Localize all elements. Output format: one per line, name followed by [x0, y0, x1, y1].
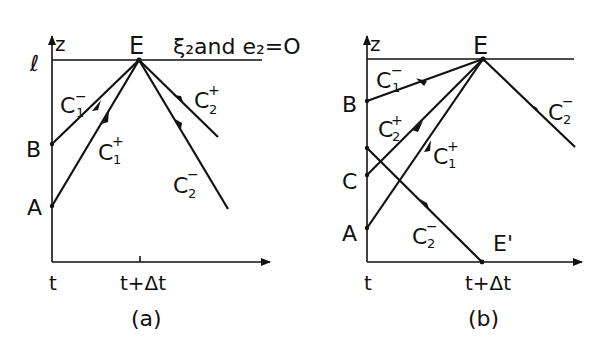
point-a-label: A	[27, 195, 42, 220]
svg-text:−: −	[562, 93, 574, 109]
c2-plus-label: C + 2	[194, 82, 220, 117]
c1-minus-label: C − 1	[376, 62, 403, 95]
c1-plus-label: C + 1	[98, 133, 124, 167]
svg-text:1: 1	[113, 152, 121, 167]
point-a-label: A	[342, 221, 357, 246]
svg-text:−: −	[187, 166, 199, 182]
svg-text:2: 2	[563, 112, 571, 127]
svg-text:2: 2	[427, 236, 435, 251]
c2-minus-right-label: C − 2	[548, 93, 574, 127]
arrow-icon	[530, 104, 540, 114]
svg-text:2: 2	[209, 102, 217, 117]
svg-text:+: +	[447, 138, 459, 154]
tick-label-t: t	[49, 271, 57, 295]
svg-text:1: 1	[392, 80, 400, 95]
c1-minus-label: C − 1	[60, 88, 87, 120]
point-c	[365, 173, 369, 177]
boundary-condition-note: ξ₂and e₂=O	[173, 34, 301, 59]
point-e-label: E	[473, 32, 488, 60]
level-label: ℓ	[29, 51, 39, 76]
c1-plus-label: C + 1	[433, 138, 459, 171]
svg-text:+: +	[112, 133, 124, 149]
tick-label-t-plus-dt: t+Δt	[120, 271, 166, 295]
panel-caption-b: (b)	[468, 306, 499, 331]
point-e-label: E	[129, 32, 144, 60]
svg-text:−: −	[75, 88, 87, 104]
svg-text:+: +	[391, 112, 403, 128]
point-b-label: B	[26, 137, 41, 162]
c2-minus-label: C − 2	[173, 166, 199, 201]
svg-text:2: 2	[188, 186, 196, 201]
svg-text:2: 2	[392, 129, 400, 144]
point-b-label: B	[342, 92, 357, 117]
svg-text:C: C	[376, 68, 391, 93]
c1-plus-line	[52, 60, 139, 206]
arrow-icon	[412, 121, 423, 132]
svg-text:C: C	[60, 93, 75, 118]
panel-b: z E B C A E' C − 1 C + 2 C + 1 C − 2 C −…	[342, 32, 582, 331]
z-axis-label: z	[370, 32, 381, 56]
point-b	[50, 142, 54, 146]
panel-caption-a: (a)	[131, 306, 162, 331]
point-c-label: C	[342, 169, 357, 194]
point-e-prime	[480, 260, 485, 265]
tick-label-t: t	[364, 271, 372, 295]
svg-text:−: −	[426, 218, 438, 234]
point-a	[50, 204, 54, 208]
z-axis-label: z	[55, 32, 66, 56]
point-b	[365, 99, 369, 103]
characteristics-diagram: z ℓ E ξ₂and e₂=O B A C − 1 C + 1 C + 2 C…	[0, 0, 606, 354]
point-a	[365, 226, 369, 230]
svg-text:1: 1	[76, 105, 84, 120]
point-upper-start	[365, 146, 369, 150]
c2-plus-label: C + 2	[378, 112, 403, 144]
tick-label-t-plus-dt: t+Δt	[465, 271, 511, 295]
svg-text:−: −	[391, 62, 403, 78]
svg-text:+: +	[208, 82, 220, 98]
svg-text:1: 1	[448, 156, 456, 171]
c2-minus-lower-label: C − 2	[412, 218, 438, 251]
panel-a: z ℓ E ξ₂and e₂=O B A C − 1 C + 1 C + 2 C…	[26, 32, 301, 331]
point-e-prime-label: E'	[493, 231, 513, 256]
